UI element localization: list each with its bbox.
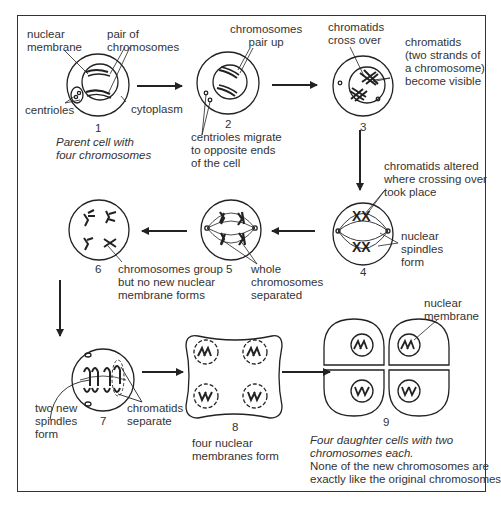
cell-2 [197, 52, 259, 114]
svg-text:XX: XX [352, 239, 371, 255]
label-four-nuclear-membranes: four nuclear membranes form [192, 437, 279, 463]
label-centrioles-migrate: centrioles migrate to opposite ends of t… [191, 131, 282, 170]
cell-1 [67, 54, 129, 116]
stage-1-caption: Parent cell with four chromosomes [56, 136, 151, 162]
label-nuclear-membrane: nuclear membrane [27, 28, 82, 54]
cell-3 [333, 56, 393, 116]
label-chromosomes-group: chromosomes group but no new nuclear mem… [118, 263, 223, 302]
label-chromosomes-pair-up: chromosomes pair up [230, 23, 302, 49]
stage-number-4: 4 [360, 266, 366, 278]
label-nuclear-spindles: nuclear spindles form [401, 230, 443, 269]
label-chromatids-cross-over: chromatids cross over [328, 21, 384, 47]
stage-number-7: 7 [100, 415, 106, 427]
stage-number-3: 3 [360, 121, 366, 133]
cell-4: XX XX [333, 203, 393, 265]
label-whole-chromosomes: whole chromosomes separated [251, 263, 323, 302]
stage-number-1: 1 [95, 122, 101, 134]
stage-9-caption: Four daughter cells with two chromosomes… [310, 434, 453, 460]
label-chromatids-altered: chromatids altered where crossing over t… [384, 160, 487, 199]
cell-6 [69, 200, 129, 262]
stage-9-note: None of the new chromosomes are exactly … [310, 460, 501, 486]
label-cytoplasm: cytoplasm [131, 103, 183, 116]
svg-text:XX: XX [352, 208, 371, 224]
cell-8 [186, 336, 282, 418]
label-centrioles: centrioles [25, 104, 74, 117]
label-nuclear-membrane-9: nuclear membrane [424, 297, 479, 323]
label-pair-of-chromosomes: pair of chromosomes [107, 28, 179, 54]
stage-number-2: 2 [225, 118, 231, 130]
label-chromatids-visible: chromatids (two strands of a chromosome)… [405, 36, 485, 88]
stage-number-5: 5 [226, 263, 232, 275]
stage-number-8: 8 [232, 421, 238, 433]
label-chromatids-separate: chromatids separate [127, 402, 183, 428]
stage-number-9: 9 [383, 416, 389, 428]
cell-9 [324, 319, 449, 416]
stage-number-6: 6 [95, 263, 101, 275]
label-two-new-spindles: two new spindles form [35, 402, 77, 441]
cell-5 [201, 200, 261, 264]
